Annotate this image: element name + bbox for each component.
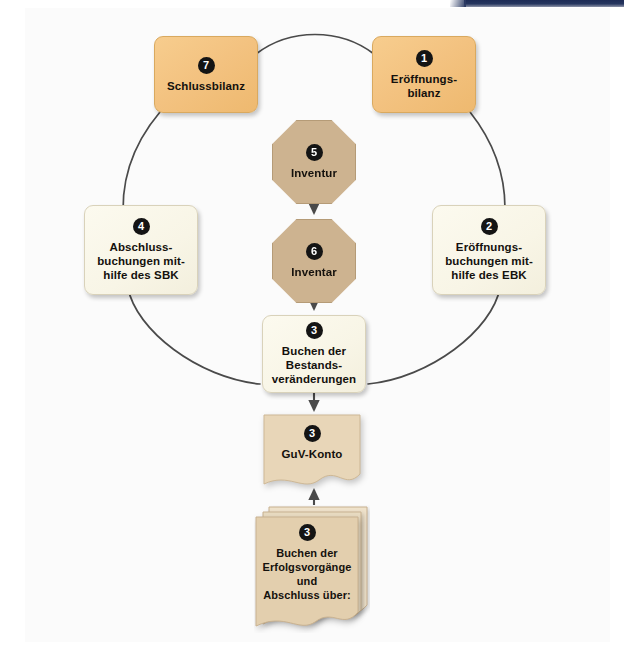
badge-number: 4	[133, 218, 150, 235]
node-schlussbilanz[interactable]: 7 Schlussbilanz	[154, 36, 258, 113]
node-label: Inventur	[285, 166, 343, 180]
node-bestandsveraenderungen[interactable]: 3 Buchen der Bestands- veränderungen	[262, 315, 366, 393]
node-label: Eröffnungs- buchungen mit- hilfe des EBK	[439, 240, 539, 282]
badge-number: 6	[306, 243, 323, 260]
node-label: Buchen der Erfolgsvorgänge und Abschluss…	[257, 546, 358, 602]
node-label: Abschluss- buchungen mit- hilfe des SBK	[91, 240, 191, 282]
node-eroeffnungsbilanz[interactable]: 1 Eröffnungs- bilanz	[372, 36, 476, 113]
badge-number: 2	[481, 218, 498, 235]
node-guv-konto[interactable]: 3 GuV-Konto	[263, 414, 361, 486]
badge-number: 3	[304, 425, 321, 442]
node-erfolgsvorgaenge-stack[interactable]: 3 Buchen der Erfolgsvorgänge und Abschlu…	[254, 505, 370, 630]
node-label: GuV-Konto	[276, 447, 349, 461]
badge-number: 3	[306, 322, 323, 339]
node-label: Eröffnungs- bilanz	[385, 72, 463, 100]
node-label: Inventar	[285, 265, 343, 279]
node-eroeffnungsbuchungen-ebk[interactable]: 2 Eröffnungs- buchungen mit- hilfe des E…	[432, 205, 546, 295]
node-label: Schlussbilanz	[161, 79, 251, 93]
doc-text-block: 3 Buchen der Erfolgsvorgänge und Abschlu…	[256, 517, 358, 617]
edge-3-4	[128, 288, 260, 384]
edge-7-1	[256, 35, 374, 55]
node-inventar[interactable]: 6 Inventar	[272, 219, 356, 303]
diagram-canvas: 7 Schlussbilanz 1 Eröffnungs- bilanz 4 A…	[0, 0, 624, 656]
node-abschlussbuchungen-sbk[interactable]: 4 Abschluss- buchungen mit- hilfe des SB…	[84, 205, 198, 295]
badge-number: 5	[306, 144, 323, 161]
badge-number: 7	[198, 57, 215, 74]
badge-number: 3	[299, 524, 316, 541]
badge-number: 1	[416, 50, 433, 67]
edge-2-3	[368, 288, 500, 384]
node-label: Buchen der Bestands- veränderungen	[266, 344, 362, 386]
node-inventur[interactable]: 5 Inventur	[272, 120, 356, 204]
